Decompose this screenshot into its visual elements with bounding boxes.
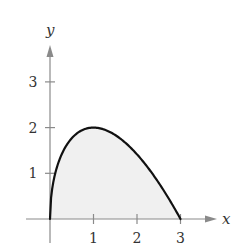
x-tick-label: 1 bbox=[89, 230, 98, 246]
y-tick-label: 1 bbox=[29, 165, 38, 181]
y-axis-label: y bbox=[45, 21, 55, 39]
y-axis-arrow-icon bbox=[47, 45, 54, 57]
x-tick-label: 3 bbox=[176, 230, 185, 246]
x-tick-label: 2 bbox=[133, 230, 142, 246]
chart: 123 123 x y bbox=[0, 0, 243, 251]
y-tick-label: 3 bbox=[29, 74, 38, 90]
x-axis-label: x bbox=[222, 210, 231, 228]
y-tick-label: 2 bbox=[29, 120, 38, 136]
x-axis-arrow-icon bbox=[205, 216, 217, 223]
y-ticks: 123 bbox=[29, 74, 55, 181]
